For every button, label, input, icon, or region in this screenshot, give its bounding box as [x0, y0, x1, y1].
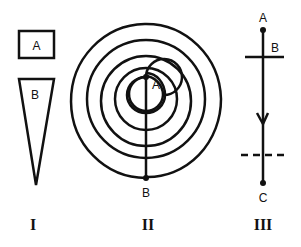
label-b: B: [31, 88, 39, 102]
label-c: C: [259, 191, 268, 205]
point-c: [260, 180, 266, 186]
figure-1: A B I: [19, 31, 54, 233]
point-b: [143, 175, 149, 181]
diagram-canvas: A B I A B II A B C III: [0, 0, 301, 247]
figure-2: A B II: [71, 24, 221, 233]
label-a: A: [152, 78, 160, 92]
roman-label-2: II: [142, 216, 154, 233]
label-b: B: [142, 186, 150, 200]
roman-label-1: I: [30, 216, 36, 233]
figure-3: A B C III: [241, 11, 286, 233]
label-a: A: [259, 11, 267, 25]
label-b: B: [271, 41, 279, 55]
point-a: [143, 74, 149, 80]
roman-label-3: III: [254, 216, 273, 233]
point-a: [260, 27, 266, 33]
label-a: A: [32, 39, 40, 53]
